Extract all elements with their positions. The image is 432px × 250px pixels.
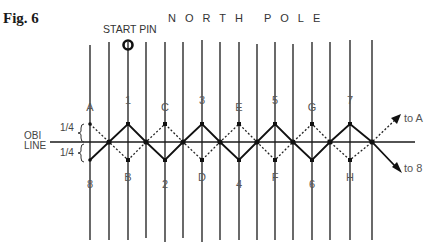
- lower-label: D: [198, 171, 206, 183]
- lower-label: 6: [309, 178, 315, 190]
- lower-label: H: [346, 171, 354, 183]
- upper-label: E: [235, 101, 242, 113]
- upper-label: A: [86, 101, 94, 113]
- lower-fraction: 1/4: [60, 147, 74, 158]
- lower-label: B: [124, 171, 131, 183]
- arrow-to-8-label: to 8: [404, 162, 422, 174]
- lower-label: 2: [162, 178, 168, 190]
- upper-fraction: 1/4: [60, 122, 74, 133]
- upper-label: 3: [199, 94, 205, 106]
- arrow-to-a-icon: [391, 114, 401, 124]
- lower-brace: [78, 144, 84, 162]
- upper-label: 7: [347, 94, 353, 106]
- obi-label-line2: LINE: [24, 140, 47, 151]
- upper-brace: [78, 124, 84, 142]
- lower-label: 4: [236, 178, 242, 190]
- lower-label: F: [272, 171, 279, 183]
- upper-label: 1: [125, 94, 131, 106]
- pin-diagram: A 1 C 3 E 5 G 7 8 B 2 D 4 F 6 H OBI LINE…: [0, 0, 432, 250]
- lower-label: 8: [87, 178, 93, 190]
- upper-label: 5: [272, 94, 278, 106]
- upper-label: G: [308, 101, 317, 113]
- upper-label: C: [161, 101, 169, 113]
- arrow-to-a-label: to A: [404, 112, 424, 124]
